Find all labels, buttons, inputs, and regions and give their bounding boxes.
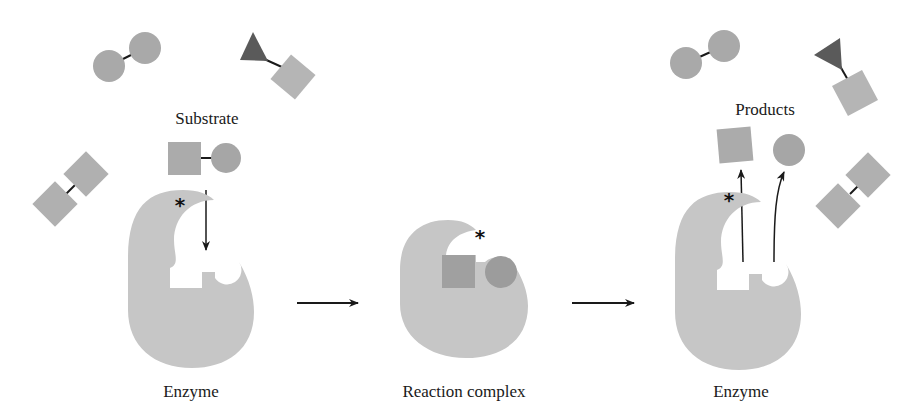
- square-molecule: [832, 70, 878, 116]
- release-arrow-square: [741, 170, 743, 262]
- active-site-marker: *: [724, 188, 735, 212]
- molecule-triangle-square-left: [240, 32, 316, 100]
- square-molecule: [270, 54, 315, 99]
- molecule-circle-pair-right: [670, 30, 740, 79]
- molecule-circle-pair-left: [93, 32, 161, 82]
- circle-molecule: [93, 50, 125, 82]
- substrate-circle: [211, 143, 241, 173]
- molecule-square-pair-left: [32, 151, 108, 226]
- active-site-marker: *: [475, 225, 486, 249]
- circle-molecule: [129, 32, 161, 64]
- triangle-molecule: [240, 32, 268, 61]
- product-square: [717, 127, 754, 164]
- circle-molecule: [670, 47, 702, 79]
- enzyme-middle: [400, 220, 528, 358]
- reaction-complex-label: Reaction complex: [402, 382, 526, 401]
- product-circle: [773, 134, 805, 166]
- products-label: Products: [735, 100, 795, 119]
- active-site-marker: *: [175, 193, 186, 217]
- bound-substrate-circle: [485, 256, 517, 288]
- triangle-molecule: [814, 38, 842, 70]
- molecule-square-pair-right: [815, 152, 890, 228]
- enzyme-label-left: Enzyme: [163, 382, 219, 401]
- enzyme-left: [128, 190, 254, 368]
- substrate-molecule: [168, 142, 241, 175]
- enzyme-right: [675, 192, 801, 370]
- bound-substrate-square: [442, 255, 475, 288]
- substrate-label: Substrate: [175, 109, 238, 128]
- circle-molecule: [708, 30, 740, 62]
- molecule-triangle-square-right: [814, 38, 878, 116]
- enzyme-label-right: Enzyme: [713, 382, 769, 401]
- reaction-complex: [400, 220, 528, 358]
- substrate-square: [168, 142, 201, 175]
- enzyme-reaction-diagram: Substrate * Enzyme * Reaction complex P: [0, 0, 917, 418]
- release-arrow-circle: [774, 172, 784, 262]
